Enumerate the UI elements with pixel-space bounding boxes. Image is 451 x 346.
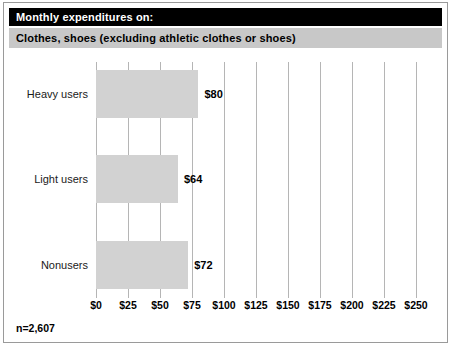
category-label: Nonusers [41, 259, 88, 271]
chart-subtitle: Clothes, shoes (excluding athletic cloth… [16, 28, 296, 48]
chart-title: Monthly expenditures on: [16, 8, 153, 26]
category-label: Heavy users [27, 88, 88, 100]
x-tick-label: $50 [151, 298, 169, 312]
bar-row: Heavy users$80 [96, 70, 416, 118]
category-label-wrap: Heavy users [0, 70, 88, 118]
x-tick-label: $125 [244, 298, 267, 312]
x-tick-label: $25 [119, 298, 137, 312]
bar-row: Light users$64 [96, 155, 416, 203]
chart-title-bar: Monthly expenditures on: [9, 8, 442, 26]
category-label-wrap: Nonusers [0, 241, 88, 289]
bar-row: Nonusers$72 [96, 241, 416, 289]
bar [96, 70, 198, 118]
category-label: Light users [34, 173, 88, 185]
x-tick-label: $175 [308, 298, 331, 312]
x-tick-label: $250 [404, 298, 427, 312]
x-tick-label: $200 [340, 298, 363, 312]
chart-figure: Monthly expenditures on: Clothes, shoes … [0, 0, 451, 346]
plot-area: Heavy users$80Light users$64Nonusers$72 [96, 62, 416, 298]
bar-value-label: $72 [188, 241, 212, 289]
sample-size-note: n=2,607 [16, 322, 55, 334]
x-axis: $0$25$50$75$100$125$150$175$200$225$250 [96, 298, 416, 314]
x-tick-label: $100 [212, 298, 235, 312]
x-tick-label: $225 [372, 298, 395, 312]
x-tick-label: $75 [183, 298, 201, 312]
x-tick-label: $0 [90, 298, 102, 312]
bar [96, 241, 188, 289]
chart-subtitle-bar: Clothes, shoes (excluding athletic cloth… [9, 28, 442, 48]
bar-value-label: $64 [178, 155, 202, 203]
bar-value-label: $80 [198, 70, 222, 118]
x-tick-label: $150 [276, 298, 299, 312]
bar [96, 155, 178, 203]
category-label-wrap: Light users [0, 155, 88, 203]
gridline [416, 62, 417, 298]
